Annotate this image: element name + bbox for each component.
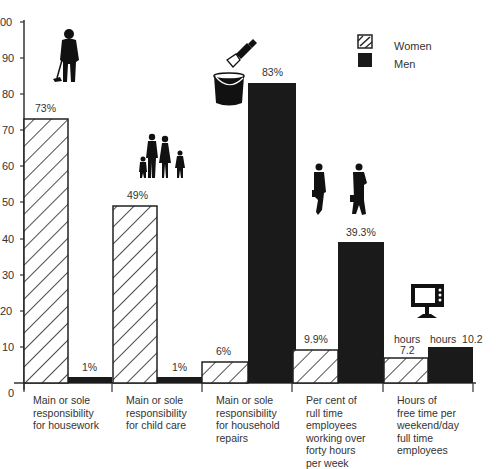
woman-with-broom-icon xyxy=(53,29,79,82)
value-label-men-childcare: 1% xyxy=(172,361,187,373)
bar-men-housework xyxy=(68,377,112,383)
x-axis xyxy=(14,383,476,392)
y-tick-0: 0 xyxy=(8,387,14,399)
value-label-men-free-time: hours 10.2 xyxy=(430,333,483,345)
bar-women-free-time xyxy=(384,358,428,383)
value-label-men-housework: 1% xyxy=(82,361,97,373)
bar-group-housework: 73% 1% xyxy=(24,102,112,383)
value-label-men-over-forty-hours: 39.3% xyxy=(346,226,376,238)
television-icon xyxy=(411,284,444,318)
category-label-free-time: Hours of free time per weekend/day full … xyxy=(397,394,459,457)
commuters-icon xyxy=(312,164,367,216)
value-label-women-repairs: 6% xyxy=(216,345,231,357)
category-label-over-forty-hours: Per cent of rull time employees working … xyxy=(306,394,366,469)
y-tick-70: 70 xyxy=(2,124,14,136)
legend-label-women: Women xyxy=(394,40,432,52)
value-label-men-repairs: 83% xyxy=(262,66,283,78)
bar-women-housework xyxy=(24,119,68,383)
category-label-childcare: Main or sole responsibility for child ca… xyxy=(126,394,187,432)
bar-women-childcare xyxy=(113,206,157,383)
bar-men-over-forty-hours xyxy=(338,242,384,383)
value-label-women-over-forty-hours: 9.9% xyxy=(304,333,328,345)
category-label-housework: Main or sole responsibility for housewor… xyxy=(33,394,99,432)
y-tick-10: 10 xyxy=(2,341,14,353)
bar-group-repairs: 6% 83% xyxy=(202,66,296,383)
y-tick-50: 50 xyxy=(2,196,14,208)
bar-group-childcare: 49% 1% xyxy=(113,189,202,383)
bar-men-free-time xyxy=(428,347,473,383)
y-tick-20: 20 xyxy=(0,305,12,317)
bar-group-free-time: hours 7.2 hours 10.2 xyxy=(384,333,483,383)
legend xyxy=(358,35,372,67)
y-tick-100: 00 xyxy=(0,16,12,28)
y-tick-90: 90 xyxy=(2,52,14,64)
family-icon xyxy=(139,134,185,178)
y-tick-40: 40 xyxy=(2,233,14,245)
value-label-women-free-time: 7.2 xyxy=(400,344,415,356)
y-tick-60: 60 xyxy=(2,160,14,172)
value-label-women-housework: 73% xyxy=(35,102,56,114)
bar-men-childcare xyxy=(157,377,202,383)
y-axis: 00 90 80 70 60 50 40 30 20 10 0 xyxy=(0,16,24,399)
y-tick-30: 30 xyxy=(2,269,14,281)
bar-group-over-forty-hours: 9.9% 39.3% xyxy=(293,226,384,383)
legend-label-men: Men xyxy=(394,58,415,70)
y-tick-80: 80 xyxy=(2,88,14,100)
legend-swatch-men xyxy=(358,53,372,67)
bar-women-repairs xyxy=(202,362,248,383)
value-label-women-childcare: 49% xyxy=(127,189,148,201)
category-label-repairs: Main or sole responsibility for househol… xyxy=(216,394,280,444)
bar-men-repairs xyxy=(248,83,296,383)
bar-women-over-forty-hours xyxy=(293,350,338,383)
